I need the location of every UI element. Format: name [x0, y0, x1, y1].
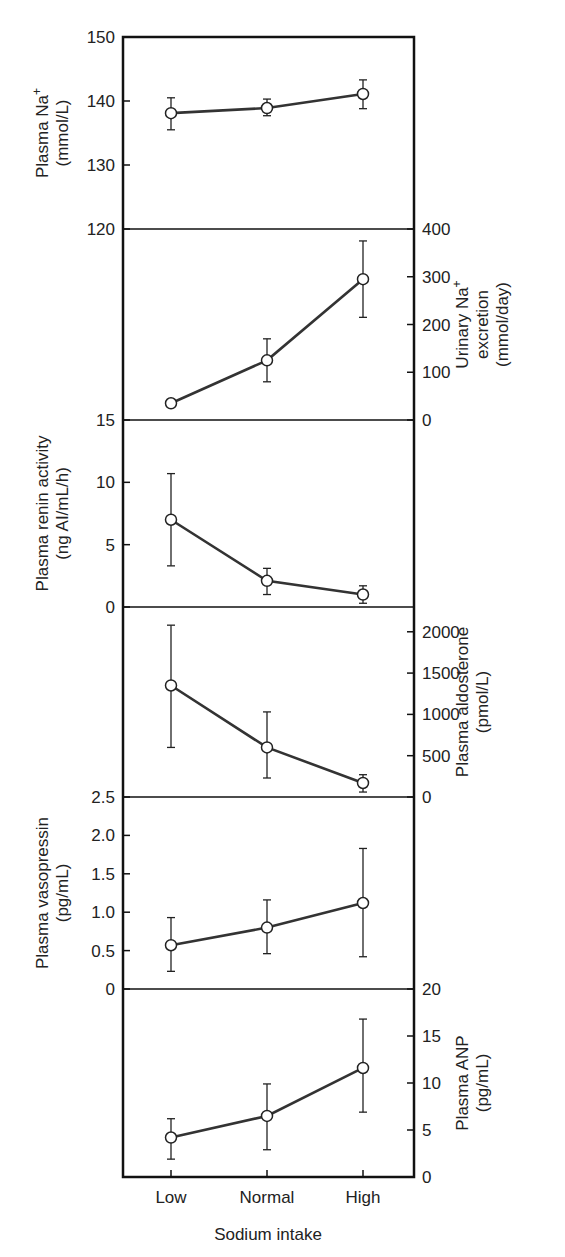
y-tick-label: 300 [422, 268, 450, 287]
y-axis-title: Plasma Na+ [30, 88, 52, 178]
y-tick-label: 0.5 [91, 942, 115, 961]
y-axis-title: (ng AI/mL/h) [53, 467, 72, 560]
y-tick-label: 2.0 [91, 826, 115, 845]
y-tick-label: 10 [422, 1074, 441, 1093]
y-tick-label: 140 [87, 92, 115, 111]
data-point [262, 355, 273, 366]
panel-3: 051015Plasma renin activity(ng AI/mL/h) [33, 411, 414, 617]
y-tick-label: 130 [87, 156, 115, 175]
x-tick-label: High [346, 1188, 381, 1207]
y-axis-title: (mmol/L) [53, 99, 72, 166]
data-point [358, 1062, 369, 1073]
data-point [262, 103, 273, 114]
panel-6: 05101520Plasma ANP(pg/mL) [166, 980, 493, 1187]
data-point [358, 777, 369, 788]
x-axis-title: Sodium intake [214, 1225, 322, 1244]
y-axis-title: Urinary Na+ [450, 280, 472, 368]
y-tick-label: 5 [106, 536, 115, 555]
y-tick-label: 0 [106, 598, 115, 617]
data-point [262, 575, 273, 586]
y-axis-title: (pmol/L) [473, 671, 492, 733]
x-axis: LowNormalHigh [155, 1170, 380, 1207]
x-tick-label: Normal [240, 1188, 295, 1207]
y-tick-label: 2.5 [91, 788, 115, 807]
y-tick-label: 15 [422, 1027, 441, 1046]
y-tick-label: 0 [106, 980, 115, 999]
data-point [358, 589, 369, 600]
y-axis-title: Plasma renin activity [33, 435, 52, 591]
y-tick-label: 1.0 [91, 903, 115, 922]
y-tick-label: 500 [422, 747, 450, 766]
stacked-panel-chart: 120130140150Plasma Na+(mmol/L)0100200300… [0, 0, 565, 1257]
y-axis-title: excretion [473, 290, 492, 359]
panel-1: 120130140150Plasma Na+(mmol/L) [30, 28, 414, 239]
data-point [166, 514, 177, 525]
y-tick-label: 0 [422, 411, 431, 430]
y-tick-label: 1.5 [91, 865, 115, 884]
panel-4: 0500100015002000Plasma aldosterone(pmol/… [123, 623, 492, 807]
y-axis-title: (pg/mL) [473, 1054, 492, 1113]
y-tick-label: 150 [87, 28, 115, 47]
panel-5: 00.51.01.52.02.5Plasma vasopressin(pg/mL… [33, 788, 414, 999]
y-tick-label: 200 [422, 316, 450, 335]
y-axis-title: Plasma vasopressin [33, 817, 52, 969]
y-tick-label: 0 [422, 788, 431, 807]
y-tick-label: 400 [422, 220, 450, 239]
data-point [166, 680, 177, 691]
y-axis-title: Plasma ANP [453, 1035, 472, 1130]
data-point [262, 1110, 273, 1121]
data-point [166, 1132, 177, 1143]
y-axis-title: (mmol/day) [493, 282, 512, 367]
y-tick-label: 15 [96, 411, 115, 430]
y-axis-title: (pg/mL) [53, 864, 72, 923]
data-point [262, 742, 273, 753]
panel-2: 0100200300400Urinary Na+excretion(mmol/d… [123, 220, 512, 430]
y-tick-label: 10 [96, 473, 115, 492]
x-tick-label: Low [155, 1188, 187, 1207]
data-point [166, 108, 177, 119]
data-point [358, 897, 369, 908]
data-point [358, 88, 369, 99]
data-point [358, 274, 369, 285]
data-point [166, 398, 177, 409]
y-tick-label: 5 [422, 1121, 431, 1140]
y-tick-label: 120 [87, 220, 115, 239]
data-point [262, 922, 273, 933]
y-tick-label: 0 [422, 1168, 431, 1187]
y-axis-title: Plasma aldosterone [453, 627, 472, 777]
y-tick-label: 100 [422, 363, 450, 382]
y-tick-label: 20 [422, 980, 441, 999]
panels-group: 120130140150Plasma Na+(mmol/L)0100200300… [30, 28, 512, 1187]
data-point [166, 940, 177, 951]
